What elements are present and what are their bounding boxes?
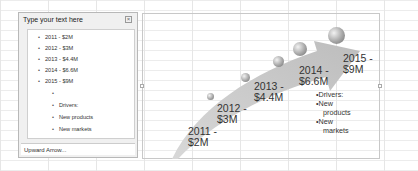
drivers-heading: Drivers: (316, 90, 351, 99)
text-item-2015[interactable]: 2015 - $9M (38, 78, 73, 84)
milestone-orb-2014 (293, 42, 307, 56)
milestone-2015[interactable]: 2015 - $9M (343, 53, 373, 75)
text-item-2014[interactable]: 2014 - $6.6M (38, 67, 78, 73)
milestone-orb-2011 (207, 93, 214, 100)
text-item-2011[interactable]: 2011 - $2M (38, 34, 73, 40)
text-item-new-products[interactable]: New products (52, 114, 93, 120)
drivers-list[interactable]: Drivers: New products New markets (316, 90, 351, 135)
milestone-2013[interactable]: 2013 - $4.4M (254, 81, 284, 103)
milestone-orb-2015 (328, 27, 345, 44)
text-pane-title: Type your text here (23, 16, 83, 23)
milestone-orb-2013 (273, 56, 284, 67)
layout-name-link[interactable]: Upward Arrow... (21, 143, 135, 155)
driver-item-new-markets: New (316, 117, 351, 126)
text-item-empty[interactable] (52, 90, 59, 96)
close-icon[interactable]: × (125, 16, 132, 23)
driver-item-new-products: New (316, 99, 351, 108)
milestone-2014[interactable]: 2014 - $6.6M (299, 65, 329, 87)
text-item-2013[interactable]: 2013 - $4.4M (38, 56, 78, 62)
milestone-value: $6.6M (299, 76, 329, 87)
milestone-orb-2012 (241, 73, 250, 82)
milestone-2011[interactable]: 2011 - $2M (188, 126, 217, 148)
text-pane-editor[interactable]: 2011 - $2M 2012 - $3M 2013 - $4.4M 2014 … (27, 29, 135, 139)
milestone-2012[interactable]: 2012 - $3M (217, 103, 247, 125)
text-item-new-markets[interactable]: New markets (52, 126, 92, 132)
driver-item-new-products-cont: products (316, 108, 351, 117)
text-item-drivers[interactable]: Drivers: (52, 102, 78, 108)
smartart-text-pane[interactable]: Type your text here × 2011 - $2M 2012 - … (18, 12, 138, 158)
milestone-value: $2M (188, 137, 217, 148)
text-item-2012[interactable]: 2012 - $3M (38, 45, 73, 51)
milestone-value: $9M (343, 64, 373, 75)
milestone-value: $3M (217, 114, 247, 125)
milestone-value: $4.4M (254, 92, 284, 103)
driver-item-new-markets-cont: markets (316, 126, 351, 135)
